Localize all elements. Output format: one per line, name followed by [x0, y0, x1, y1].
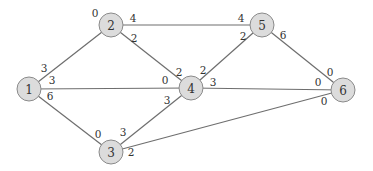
edge-1-3 — [29, 89, 111, 152]
node-5: 5 — [250, 13, 274, 37]
graph-svg: 30306044223320223060 123456 — [0, 0, 373, 171]
edge-1-2 — [29, 25, 111, 89]
node-1: 1 — [17, 77, 41, 101]
edge-label-2-4-at-4: 2 — [176, 66, 183, 78]
edge-label-2-4-at-2: 2 — [131, 32, 138, 44]
edge-label-3-4-at-3: 3 — [120, 126, 127, 138]
node-label: 1 — [25, 83, 33, 97]
node-2: 2 — [99, 13, 123, 37]
edge-4-5 — [191, 25, 262, 88]
edge-1-4 — [29, 88, 191, 89]
edge-4-6 — [191, 88, 343, 90]
edge-label-3-6-at-6: 0 — [321, 95, 328, 107]
edge-label-4-6-at-4: 3 — [210, 76, 217, 88]
edge-label-1-2-at-1: 3 — [41, 62, 48, 74]
edge-label-4-5-at-5: 2 — [240, 30, 247, 42]
edge-3-6 — [111, 90, 343, 152]
node-label: 6 — [339, 84, 347, 98]
edge-label-1-2-at-2: 0 — [92, 7, 99, 19]
edge-label-5-6-at-6: 0 — [327, 66, 334, 78]
edge-label-1-4-at-1: 3 — [49, 74, 56, 86]
node-6: 6 — [331, 78, 355, 102]
edge-label-4-5-at-4: 2 — [200, 64, 207, 76]
edge-label-2-5-at-2: 4 — [130, 12, 137, 24]
edge-5-6 — [262, 25, 343, 90]
edge-label-3-6-at-3: 2 — [128, 146, 135, 158]
edge-label-1-3-at-3: 0 — [95, 128, 102, 140]
edge-label-1-4-at-4: 0 — [162, 74, 169, 86]
edge-3-4 — [111, 88, 191, 152]
edge-label-1-3-at-1: 6 — [47, 90, 54, 102]
node-label: 4 — [187, 82, 195, 96]
edge-2-4 — [111, 25, 191, 88]
node-label: 2 — [107, 19, 115, 33]
node-3: 3 — [99, 140, 123, 164]
edge-label-2-5-at-5: 4 — [238, 12, 245, 24]
edge-label-5-6-at-5: 6 — [280, 29, 287, 41]
edge-label-4-6-at-6: 0 — [315, 76, 322, 88]
node-4: 4 — [179, 76, 203, 100]
edge-label-3-4-at-4: 3 — [164, 94, 171, 106]
node-label: 3 — [107, 146, 115, 160]
node-label: 5 — [258, 19, 266, 33]
graph-diagram: 30306044223320223060 123456 — [0, 0, 373, 171]
